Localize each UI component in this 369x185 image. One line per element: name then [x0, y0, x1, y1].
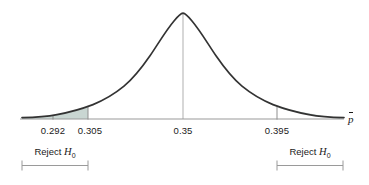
hypothesis-test-figure: 0.292 0.305 0.35 0.395 p Reject H0 Rejec… — [0, 0, 369, 185]
tick-label-0305: 0.305 — [78, 125, 102, 136]
left-reject-h0-label: Reject H0 — [34, 146, 75, 159]
x-axis-variable-label: p — [348, 112, 354, 125]
right-reject-h0-label: Reject H0 — [289, 146, 330, 159]
p-bar-symbol: p — [348, 112, 354, 125]
tick-label-0292: 0.292 — [41, 125, 65, 136]
right-h-subscript: 0 — [327, 152, 331, 159]
left-h-subscript: 0 — [72, 152, 76, 159]
right-reject-text: Reject — [289, 146, 319, 157]
tick-label-0395: 0.395 — [265, 125, 289, 136]
left-reject-text: Reject — [34, 146, 64, 157]
right-reject-bracket — [277, 161, 343, 171]
tick-label-035: 0.35 — [174, 125, 193, 136]
left-reject-bracket — [22, 161, 88, 171]
